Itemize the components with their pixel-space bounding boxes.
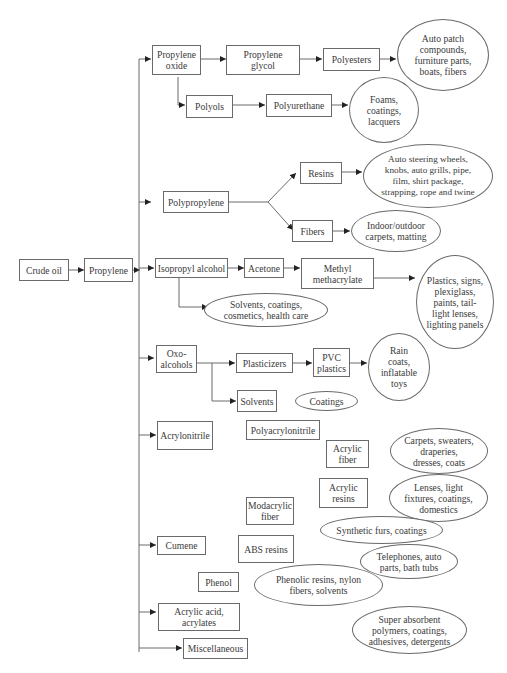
- node-oxo-alcohols: Oxo- alcohols: [156, 345, 197, 373]
- node-polyesters: Polyesters: [323, 48, 380, 71]
- node-plasticizers: Plasticizers: [236, 353, 293, 373]
- node-coatings: Coatings: [295, 391, 358, 411]
- node-resins: Resins: [300, 162, 342, 184]
- node-ipa-uses: Solvents, coatings, cosmetics, health ca…: [204, 293, 328, 327]
- node-propylene-glycol: Propylene glycol: [226, 45, 300, 75]
- node-polyesters-uses: Auto patch compounds, furniture parts, b…: [397, 19, 489, 91]
- node-acrylic-resins: Acrylic resins: [319, 478, 368, 508]
- node-polyols: Polyols: [186, 95, 233, 118]
- node-propylene-oxide: Propylene oxide: [152, 45, 201, 75]
- node-methyl-methacrylate: Methyl methacrylate: [301, 258, 374, 289]
- node-crude-oil: Crude oil: [19, 259, 69, 281]
- node-polyurethane: Polyurethane: [266, 94, 332, 117]
- node-polyurethane-uses: Foams, coatings, lacquers: [349, 77, 419, 143]
- node-resins-uses: Auto steering wheels, knobs, auto grills…: [363, 144, 493, 208]
- node-phenol: Phenol: [198, 572, 239, 592]
- node-mma-uses: Plastics, signs, plexiglass, paints, tai…: [416, 255, 494, 349]
- node-modacrylic-uses: Synthetic furs, coatings: [320, 516, 443, 544]
- node-acrylic-fiber: Acrylic fiber: [326, 440, 369, 468]
- node-miscellaneous: Miscellaneous: [183, 638, 248, 659]
- node-propylene: Propylene: [84, 258, 133, 282]
- node-fibers-uses: Indoor/outdoor carpets, matting: [351, 210, 441, 252]
- node-acrylic-acid-uses: Super absorbent polymers, coatings, adhe…: [352, 606, 467, 654]
- node-pvc-uses: Rain coats, inflatable toys: [368, 333, 430, 401]
- node-solvents: Solvents: [237, 390, 277, 412]
- node-modacrylic-fiber: Modacrylic fiber: [246, 497, 294, 525]
- node-acetone: Acetone: [244, 258, 284, 278]
- node-abs-resins: ABS resins: [238, 535, 294, 563]
- node-acrylonitrile: Acrylonitrile: [157, 421, 213, 450]
- node-acrylic-acid: Acrylic acid, acrylates: [158, 603, 240, 631]
- node-acrylic-resins-uses: Lenses, light fixtures, coatings, domest…: [389, 474, 488, 522]
- node-phenol-uses: Phenolic resins, nylon fibers, solvents: [254, 564, 383, 606]
- node-polyacrylonitrile: Polyacrylonitrile: [246, 420, 320, 440]
- node-pvc-plastics: PVC plastics: [313, 348, 350, 377]
- node-acrylic-fiber-uses: Carpets, sweaters, draperies, dresses, c…: [390, 428, 488, 474]
- node-polypropylene: Polypropylene: [163, 191, 229, 213]
- node-isopropyl-alcohol: Isopropyl alcohol: [155, 258, 228, 278]
- node-fibers: Fibers: [292, 220, 333, 242]
- node-cumene: Cumene: [157, 536, 206, 555]
